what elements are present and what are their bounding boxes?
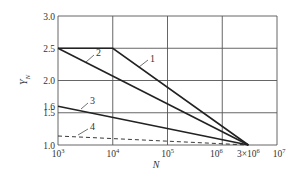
- y-axis-label: YN: [18, 75, 32, 86]
- curve-leader-line: [78, 129, 88, 135]
- y-tick-label: 2.5: [43, 44, 55, 54]
- y-tick-label: 3.0: [43, 12, 55, 22]
- x-tick-label: 105: [161, 147, 174, 159]
- x-tick-label: 103: [52, 147, 65, 159]
- x-tick-label: 107: [273, 147, 287, 159]
- y-tick-label: 1.6: [43, 102, 55, 112]
- x-tick-label: 104: [106, 147, 120, 159]
- curve-label-2: 2: [96, 47, 101, 58]
- curve-leader-line: [86, 55, 94, 62]
- x-tick-label: 3×106: [237, 147, 261, 159]
- y-axis-ticks: 1.01.51.62.02.53.0: [43, 12, 55, 151]
- curve-leader-line: [139, 60, 148, 67]
- curve-label-1: 1: [150, 53, 155, 64]
- curve-label-3: 3: [90, 95, 95, 106]
- x-axis-ticks: 1031041051063×106107: [52, 147, 287, 159]
- y-tick-label: 2.0: [43, 76, 55, 86]
- curve-4: [58, 136, 248, 145]
- x-tick-label: 106: [210, 147, 224, 159]
- chart: 1.01.51.62.02.53.0 1031041051063×106107 …: [0, 0, 296, 183]
- curve-3: [58, 106, 248, 145]
- curve-leader-line: [81, 103, 88, 109]
- curve-label-4: 4: [90, 121, 95, 132]
- x-axis-label: N: [152, 159, 161, 170]
